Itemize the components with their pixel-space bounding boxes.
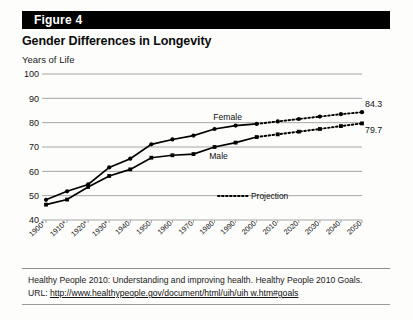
bottom-divider: [22, 304, 390, 305]
end-value-label-male: 79.7: [365, 125, 382, 135]
figure-number-label: Figure 4: [34, 13, 82, 27]
figure-title: Gender Differences in Longevity: [22, 34, 211, 48]
data-point: [149, 156, 153, 160]
chart-annotations: FemaleMale84.379.7Projection: [209, 99, 382, 201]
data-point: [339, 124, 343, 128]
x-axis-tick-label: 1910*: [48, 219, 68, 239]
x-axis-tick-label: 1960: [155, 219, 173, 237]
x-axis-tick-label: 2040: [324, 219, 342, 237]
data-point: [171, 153, 175, 157]
series-line-female: [46, 124, 257, 200]
data-point: [297, 130, 301, 134]
data-point: [107, 165, 111, 169]
y-axis-tick-label: 90: [29, 94, 39, 104]
x-axis-tick-label: 2010: [261, 219, 279, 237]
gridlines: [42, 74, 362, 223]
y-axis-tick-label: 100: [24, 69, 39, 79]
x-axis-tick-label: 1970: [177, 219, 195, 237]
footnote-source-line: Healthy People 2010: Understanding and i…: [28, 274, 390, 287]
y-axis-tick-label: 50: [29, 191, 39, 201]
x-axis-tick-label: 1980: [198, 219, 216, 237]
data-point: [86, 185, 90, 189]
series-label-female: Female: [213, 112, 242, 122]
data-point: [276, 119, 280, 123]
x-axis-tick-label: 1950: [134, 219, 152, 237]
data-series: [44, 110, 364, 206]
x-axis-tick-labels: 1900*1910*1920*1930*19401950196019701980…: [27, 219, 363, 239]
series-projection-line-female: [257, 112, 362, 124]
data-point: [44, 198, 48, 202]
series-label-male: Male: [209, 151, 228, 161]
y-axis-tick-label: 80: [29, 118, 39, 128]
data-point: [339, 112, 343, 116]
figure-banner: Figure 4: [22, 11, 390, 29]
data-point: [234, 141, 238, 145]
x-axis-tick-label: 1990: [219, 219, 237, 237]
data-point: [149, 142, 153, 146]
longevity-line-chart: 405060708090100 1900*1910*1920*1930*1940…: [22, 68, 390, 248]
data-point: [65, 189, 69, 193]
x-axis-tick-label: 2030: [303, 219, 321, 237]
source-url-link[interactable]: http://www.healthypeople.gov/document/ht…: [50, 288, 298, 298]
data-point: [191, 133, 195, 137]
footnote-divider: [22, 268, 390, 269]
x-axis-tick-label: 1920*: [69, 219, 89, 239]
data-point: [318, 127, 322, 131]
data-point: [318, 114, 322, 118]
data-point: [360, 121, 364, 125]
y-axis-tick-label: 60: [29, 167, 39, 177]
data-point: [297, 117, 301, 121]
data-point: [234, 123, 238, 127]
data-point: [107, 174, 111, 178]
y-axis-tick-label: 70: [29, 142, 39, 152]
data-point: [128, 167, 132, 171]
chart-plot-area: 405060708090100 1900*1910*1920*1930*1940…: [22, 68, 390, 248]
footnote-url-prefix: URL:: [28, 288, 50, 298]
data-point: [65, 198, 69, 202]
data-point: [360, 110, 364, 114]
y-axis-unit-label: Years of Life: [22, 54, 74, 65]
y-axis-tick-labels: 405060708090100: [24, 69, 39, 225]
figure-card: Figure 4 Gender Differences in Longevity…: [0, 0, 413, 320]
end-value-label-female: 84.3: [365, 99, 382, 109]
footnote: Healthy People 2010: Understanding and i…: [28, 274, 390, 300]
footnote-url-line: URL: http://www.healthypeople.gov/docume…: [28, 287, 390, 300]
data-point: [192, 152, 196, 156]
series-projection-line-male: [257, 123, 362, 137]
x-axis-tick-label: 2020: [282, 219, 300, 237]
data-point: [213, 145, 217, 149]
data-point: [255, 135, 259, 139]
data-point: [128, 157, 132, 161]
data-point: [276, 132, 280, 136]
data-point: [44, 203, 48, 207]
x-axis-tick-label: 2000: [240, 219, 258, 237]
legend-projection-label: Projection: [251, 191, 289, 201]
data-point: [212, 127, 216, 131]
x-axis-tick-label: 2050: [345, 219, 363, 237]
data-point: [255, 122, 259, 126]
x-axis-tick-label: 1930*: [90, 219, 110, 239]
x-axis-tick-label: 1940: [113, 219, 131, 237]
data-point: [170, 137, 174, 141]
